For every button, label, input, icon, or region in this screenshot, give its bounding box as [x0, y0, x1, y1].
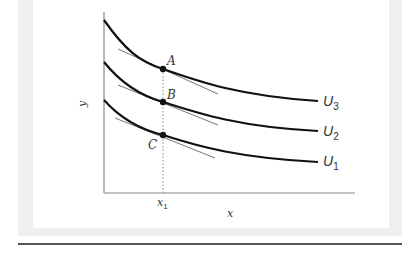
point-b-label: B [166, 88, 176, 102]
point-c-label: C [148, 138, 157, 152]
tangent-line-c [115, 118, 215, 158]
curve-u1-label: U1 [323, 153, 339, 172]
curve-u3 [104, 20, 318, 101]
indifference-curve-diagram: A B C U3 U2 U1 y x x1 [0, 0, 402, 254]
point-b-marker [160, 99, 166, 105]
x1-tick-label: x1 [157, 196, 168, 211]
point-a-label: A [166, 54, 176, 68]
y-axis-label: y [76, 100, 89, 108]
curve-u2-label: U2 [323, 123, 339, 142]
point-c-marker [160, 132, 166, 138]
curve-u1 [104, 100, 318, 162]
x-axis-label: x [227, 207, 234, 220]
curve-u3-label: U3 [323, 93, 339, 112]
point-a-marker [160, 66, 166, 72]
curve-u2 [104, 62, 318, 131]
